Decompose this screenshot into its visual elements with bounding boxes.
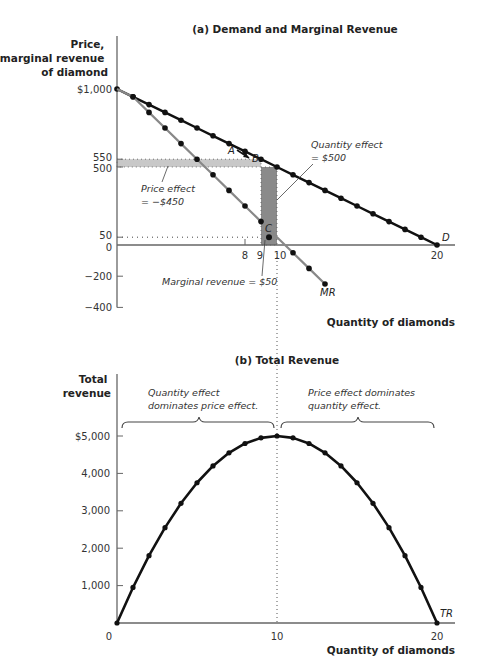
tr-data-point (306, 441, 311, 446)
left-brace-line-1: Quantity effect (148, 387, 221, 398)
x-tick-label: 20 (431, 631, 444, 642)
y-tick-label: −400 (85, 302, 112, 313)
d-data-point (402, 227, 408, 233)
left-brace-annotation: Quantity effect dominates price effect. (148, 387, 258, 411)
d-data-point (290, 172, 296, 178)
tr-data-point (354, 480, 359, 485)
d-data-point (354, 203, 360, 209)
d-data-point (258, 156, 264, 162)
tr-data-point (418, 585, 423, 590)
d-data-point (146, 102, 152, 108)
right-brace-line-2: quantity effect. (308, 400, 381, 411)
d-data-point (386, 219, 392, 225)
tr-data-point (146, 553, 151, 558)
point-c-label: C (265, 223, 272, 234)
y-tick-label: 550 (93, 152, 112, 163)
tr-data-point (434, 620, 439, 625)
demand-marginal-total-revenue-figure: (a) Demand and Marginal Revenue Price, m… (0, 0, 481, 667)
price-effect-line-1: Price effect (141, 183, 196, 194)
tr-data-point (226, 450, 231, 455)
x-tick-label: 10 (271, 631, 284, 642)
right-brace-icon (281, 417, 434, 428)
mr-data-point (242, 203, 248, 209)
y-tick-label: 4,000 (81, 468, 110, 479)
panel-a-y-axis-title: Price, marginal revenue of diamond (0, 38, 108, 78)
panel-b-title: (b) Total Revenue (235, 354, 339, 366)
point-b-label: B (252, 153, 259, 164)
x-tick-label: 20 (431, 250, 444, 261)
d-data-point (162, 110, 168, 116)
mr-data-point (290, 250, 296, 256)
tr-data-point (162, 525, 167, 530)
d-data-point (274, 164, 280, 170)
y-axis-title-line-3: of diamond (41, 66, 108, 78)
tr-data-point (194, 480, 199, 485)
point-a-label: A (227, 145, 235, 156)
y-tick-label: 2,000 (81, 543, 110, 554)
y-axis-title-line-2: revenue (63, 387, 111, 399)
panel-b-y-axis-title: Total revenue (63, 373, 111, 399)
mr-data-point (194, 156, 200, 162)
d-data-point (434, 242, 440, 248)
x-tick-label: 10 (274, 250, 287, 261)
mr-data-point (226, 188, 232, 194)
quantity-effect-annotation: Quantity effect = $500 (311, 139, 386, 163)
tr-data-point (258, 435, 263, 440)
mr-data-point (178, 141, 184, 147)
mr-data-point (162, 125, 168, 131)
y-tick-label: −200 (85, 271, 112, 282)
price-effect-leader-line (162, 166, 168, 182)
price-effect-area (117, 159, 261, 167)
tr-data-point (178, 501, 183, 506)
mr-data-point (322, 281, 328, 287)
mr-data-point (258, 219, 264, 225)
mr-data-point (130, 94, 136, 100)
panel-a-title: (a) Demand and Marginal Revenue (192, 23, 397, 35)
tr-data-point (210, 463, 215, 468)
left-brace-icon (122, 417, 274, 428)
y-tick-label: $1,000 (77, 84, 112, 95)
price-effect-line-2: = −$450 (141, 196, 184, 207)
d-data-point (370, 211, 376, 217)
tr-data-point (370, 501, 375, 506)
y-axis-title-line-1: Total (79, 373, 108, 385)
y-axis-title-line-2: marginal revenue (0, 52, 104, 64)
x-tick-label: 0 (106, 631, 112, 642)
d-data-point (210, 133, 216, 139)
d-data-point (306, 180, 312, 186)
tr-data-point (130, 585, 135, 590)
tr-data-point (322, 450, 327, 455)
y-tick-label: 3,000 (81, 505, 110, 516)
panel-a-x-axis-title: Quantity of diamonds (327, 316, 455, 328)
x-tick-label: 9 (257, 250, 263, 261)
y-tick-label: 1,000 (81, 580, 110, 591)
tr-data-point (274, 433, 279, 438)
mr-data-point (306, 266, 312, 272)
mr-curve-label: MR (320, 287, 336, 298)
panel-b-x-axis-title: Quantity of diamonds (327, 644, 455, 656)
demand-curve-label: D (442, 232, 450, 243)
d-data-point (178, 117, 184, 123)
d-data-point (322, 188, 328, 194)
tr-data-point (386, 525, 391, 530)
tr-data-point (402, 553, 407, 558)
left-brace-line-2: dominates price effect. (148, 400, 258, 411)
panel-b-axes (117, 374, 455, 623)
tr-data-point (242, 441, 247, 446)
quantity-effect-line-1: Quantity effect (311, 139, 384, 150)
tr-curve-label: TR (440, 608, 453, 619)
quantity-effect-line-2: = $500 (311, 152, 346, 163)
point-c-marker (266, 234, 272, 240)
panel-b-ticks: $5,0004,0003,0002,0001,00001020 (75, 431, 443, 643)
x-tick-label: 8 (242, 250, 248, 261)
d-data-point (194, 125, 200, 131)
mr-data-point (210, 172, 216, 178)
y-tick-label: 0 (106, 242, 112, 253)
d-data-point (338, 195, 344, 201)
marginal-revenue-annotation: Marginal revenue = $50 (162, 276, 277, 287)
tr-data-point (114, 620, 119, 625)
y-axis-title-line-1: Price, (71, 38, 105, 50)
panel-a-demand-marginal-revenue: (a) Demand and Marginal Revenue Price, m… (0, 23, 455, 328)
mr-data-point (146, 110, 152, 116)
tr-data-point (338, 463, 343, 468)
